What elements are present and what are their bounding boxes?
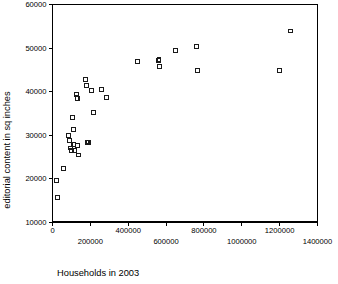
data-point xyxy=(278,68,282,72)
data-point xyxy=(70,116,74,120)
x-tick-label: 800000 xyxy=(191,226,216,235)
x-tick-label: 1200000 xyxy=(265,226,295,235)
data-point xyxy=(91,111,95,115)
x-tick-label: 1400000 xyxy=(303,237,333,246)
x-axis-title: Households in 2003 xyxy=(57,268,139,278)
x-tick-label: 600000 xyxy=(153,237,178,246)
plot-frame xyxy=(53,5,318,223)
data-point xyxy=(84,78,88,82)
data-point xyxy=(55,178,59,182)
data-point xyxy=(74,92,78,96)
data-point xyxy=(56,195,60,199)
y-tick-label: 60000 xyxy=(25,0,46,9)
data-point xyxy=(67,139,71,143)
data-point xyxy=(105,95,109,99)
data-point xyxy=(71,128,75,132)
data-point xyxy=(99,87,103,91)
x-tick-label: 0 xyxy=(50,226,54,235)
y-tick-label: 20000 xyxy=(25,174,46,183)
y-tick-label: 30000 xyxy=(25,131,46,140)
y-tick-label: 40000 xyxy=(25,87,46,96)
data-point xyxy=(67,134,71,138)
x-tick-label: 200000 xyxy=(78,237,103,246)
y-axis-ticks: 100002000030000400005000060000 xyxy=(25,0,52,227)
scatter-plot-figure: 100002000030000400005000060000 020000040… xyxy=(0,0,338,284)
data-point xyxy=(62,167,66,171)
data-point xyxy=(174,49,178,53)
x-tick-label: 400000 xyxy=(116,226,141,235)
x-axis-ticks: 0200000400000600000800000100000012000001… xyxy=(50,222,332,246)
data-point xyxy=(289,29,293,33)
x-tick-label: 1000000 xyxy=(227,237,257,246)
y-axis-title: editorial content in sq inches xyxy=(2,91,12,209)
data-point xyxy=(89,88,93,92)
data-point xyxy=(75,97,79,101)
data-point-group xyxy=(55,29,293,199)
y-tick-label: 10000 xyxy=(25,218,46,227)
data-point xyxy=(136,60,140,64)
data-point xyxy=(158,65,162,69)
data-point xyxy=(196,69,200,73)
data-point xyxy=(85,84,89,88)
data-point xyxy=(194,45,198,49)
plot-canvas: 100002000030000400005000060000 020000040… xyxy=(0,0,338,284)
y-tick-label: 50000 xyxy=(25,44,46,53)
data-point xyxy=(77,153,81,157)
